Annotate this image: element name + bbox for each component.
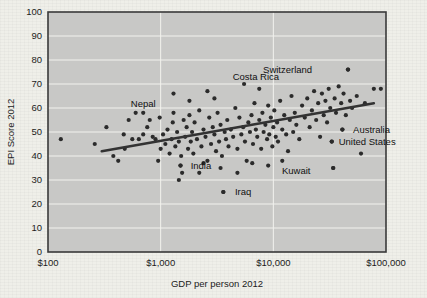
x-axis-tick-labels: $100$1,000$10,000$100,000 [37,257,405,268]
y-tick-label: 80 [31,54,42,65]
y-tick-label: 60 [31,102,42,113]
y-tick-label: 20 [31,198,42,209]
point-label: India [191,160,212,171]
x-tick-label: $100 [37,257,58,268]
annotated-data-point [346,68,350,72]
y-tick-label: 70 [31,78,42,89]
annotated-data-point [178,164,182,168]
y-tick-label: 100 [26,6,42,17]
y-tick-label: 50 [31,126,42,137]
point-label: Nepal [131,98,156,109]
point-label: Switzerland [263,64,312,75]
x-tick-label: $100,000 [366,257,406,268]
y-tick-label: 90 [31,30,42,41]
x-axis-title: GDP per person 2012 [171,278,263,289]
y-tick-label: 30 [31,174,42,185]
y-axis-title: EPI Score 2012 [5,99,16,166]
x-tick-label: $1,000 [146,257,175,268]
annotated-data-point [331,166,335,170]
annotated-data-point [221,190,225,194]
point-label: Australia [353,124,391,135]
y-tick-label: 40 [31,150,42,161]
x-tick-label: $10,000 [256,257,290,268]
y-axis-tick-labels: 0102030405060708090100 [26,6,42,257]
y-tick-label: 0 [37,246,42,257]
chart-svg: 0102030405060708090100 $100$1,000$10,000… [0,0,427,298]
annotated-data-point [330,140,334,144]
point-label: Iraq [235,186,251,197]
scatter-plot-figure: 0102030405060708090100 $100$1,000$10,000… [0,0,427,298]
annotated-data-point [340,128,344,132]
point-label: Kuwait [282,165,311,176]
y-tick-label: 10 [31,222,42,233]
point-label: United States [339,136,396,147]
